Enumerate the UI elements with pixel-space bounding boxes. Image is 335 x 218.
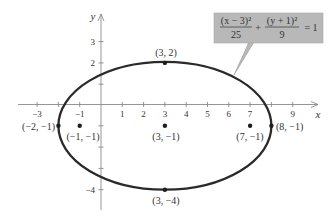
label-bottom: (3, −4)	[152, 195, 179, 207]
equation-callout: (x − 3)² 25 + (y + 1)² 9 = 1	[214, 13, 323, 75]
y-tick-3: 3	[91, 37, 96, 47]
eq-term1-denominator: 25	[231, 29, 241, 40]
x-tick-9: 9	[290, 109, 295, 119]
point-top	[163, 61, 167, 65]
point-bottom	[163, 188, 167, 192]
eq-term2-numerator: (y + 1)²	[267, 15, 297, 27]
point-center	[163, 124, 167, 128]
eq-term2-denominator: 9	[280, 29, 285, 40]
label-left-focus: (−1, −1)	[67, 131, 100, 143]
point-right-focus	[248, 124, 252, 128]
x-tick-3: 3	[163, 109, 168, 119]
y-tick-neg4: −4	[85, 185, 95, 195]
x-tick-1: 1	[120, 109, 125, 119]
y-axis-label: y	[90, 10, 96, 22]
point-left-focus	[78, 124, 82, 128]
y-tick-2: 2	[91, 58, 96, 68]
eq-plus: +	[255, 22, 261, 33]
label-right-focus: (7, −1)	[236, 131, 263, 143]
x-tick-4: 4	[184, 109, 189, 119]
ellipse-diagram: −3 −1 1 2 3 4 5 6 7 9 x 3 2 −4 y	[0, 0, 335, 218]
x-tick-2: 2	[141, 109, 146, 119]
label-top: (3, 2)	[155, 47, 177, 59]
y-axis: 3 2 −4 y	[85, 10, 104, 210]
x-tick-7: 7	[248, 109, 253, 119]
x-axis-label: x	[315, 108, 321, 120]
x-tick-neg1: −1	[75, 109, 85, 119]
label-right-vertex: (8, −1)	[276, 121, 303, 133]
eq-term1-numerator: (x − 3)²	[221, 15, 251, 27]
point-right-vertex	[269, 124, 273, 128]
x-tick-6: 6	[227, 109, 232, 119]
label-center: (3, −1)	[152, 131, 179, 143]
x-tick-neg3: −3	[32, 109, 42, 119]
eq-rhs: = 1	[304, 22, 317, 33]
x-tick-5: 5	[205, 109, 210, 119]
label-left-vertex: (−2, −1)	[22, 121, 55, 133]
point-left-vertex	[56, 124, 60, 128]
